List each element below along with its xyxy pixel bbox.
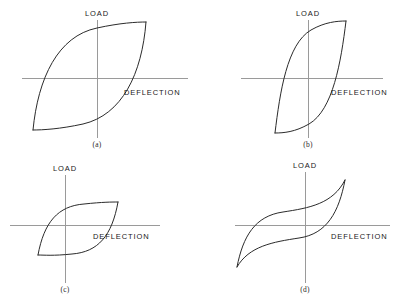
loop-lower-branch-d	[237, 180, 345, 267]
loop-lower-branch-b	[275, 21, 346, 133]
panel-c: LOAD DEFLECTION (c)	[0, 150, 205, 299]
loop-lower-branch-a	[33, 22, 146, 130]
loop-upper-branch-d	[237, 180, 345, 267]
panel-caption-c: (c)	[60, 285, 69, 294]
panel-caption-b: (b)	[303, 140, 313, 149]
loop-upper-branch-c	[38, 202, 118, 255]
panel-caption-a: (a)	[92, 140, 101, 149]
panel-d: LOAD DEFLECTION (d)	[205, 150, 410, 299]
load-axis-label-b: LOAD	[296, 9, 320, 18]
loop-lower-branch-c	[38, 202, 118, 255]
panel-caption-d: (d)	[300, 285, 310, 294]
panel-b: LOAD DEFLECTION (b)	[205, 0, 410, 150]
loop-upper-branch-a	[33, 22, 146, 130]
deflection-axis-label-c: DEFLECTION	[93, 232, 150, 241]
load-axis-label-d: LOAD	[293, 161, 317, 170]
hysteresis-figure: LOAD DEFLECTION (a) LOAD DEFLECTION (b) …	[0, 0, 410, 299]
load-axis-label-c: LOAD	[53, 164, 77, 173]
panel-a: LOAD DEFLECTION (a)	[0, 0, 205, 150]
load-axis-label-a: LOAD	[85, 9, 109, 18]
loop-upper-branch-b	[275, 21, 346, 133]
deflection-axis-label-d: DEFLECTION	[331, 232, 388, 241]
deflection-axis-label-a: DEFLECTION	[124, 88, 181, 97]
deflection-axis-label-b: DEFLECTION	[331, 88, 388, 97]
